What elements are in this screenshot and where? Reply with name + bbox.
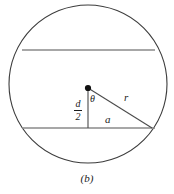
distance-fraction-label: d 2: [71, 99, 85, 122]
half-chord-label: a: [105, 114, 111, 125]
angle-theta-label: θ: [90, 94, 95, 104]
fraction-denominator: 2: [71, 112, 85, 123]
center-point-dot: [85, 85, 91, 91]
geometry-diagram: [0, 0, 174, 194]
figure-caption: (b): [0, 172, 174, 184]
figure-container: r a θ d 2 (b): [0, 0, 174, 194]
outer-circle: [9, 5, 167, 163]
radius-label: r: [124, 92, 128, 103]
triangle-hypotenuse: [88, 88, 152, 128]
fraction-numerator: d: [71, 99, 85, 110]
